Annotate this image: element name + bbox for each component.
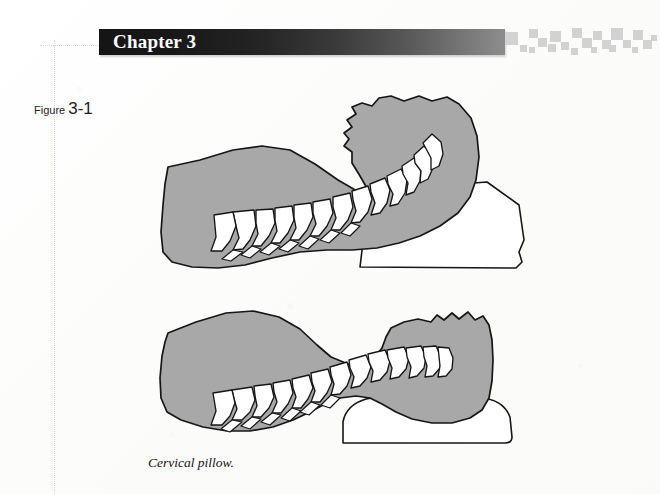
checker-block bbox=[520, 45, 527, 52]
checker-block bbox=[633, 30, 643, 40]
checker-block bbox=[505, 32, 518, 45]
checker-block bbox=[651, 35, 657, 41]
checker-blocks-decoration bbox=[505, 27, 657, 59]
checker-block bbox=[561, 42, 569, 50]
checker-block bbox=[550, 31, 561, 42]
figure-label: Figure3-1 bbox=[34, 99, 93, 119]
chapter-banner: Chapter 3 bbox=[99, 29, 505, 55]
checker-block bbox=[529, 29, 538, 38]
checker-block bbox=[609, 45, 616, 52]
checker-block bbox=[611, 28, 623, 40]
checker-block bbox=[529, 47, 535, 53]
checker-block bbox=[548, 44, 556, 52]
checker-block bbox=[623, 40, 631, 48]
checker-block bbox=[538, 38, 547, 47]
figure-label-word: Figure bbox=[34, 104, 65, 116]
checker-block bbox=[643, 40, 652, 49]
upper-panel bbox=[161, 96, 524, 268]
lower-panel bbox=[160, 311, 512, 443]
checker-block bbox=[593, 31, 602, 40]
checker-block bbox=[632, 47, 638, 53]
chapter-title: Chapter 3 bbox=[113, 31, 196, 53]
figure-caption: Cervical pillow. bbox=[148, 455, 234, 471]
checker-block bbox=[572, 28, 582, 38]
checker-block bbox=[571, 48, 578, 55]
figure-label-number: 3-1 bbox=[68, 99, 93, 118]
checker-block bbox=[591, 47, 597, 53]
cervical-pillow-illustration bbox=[0, 0, 660, 494]
